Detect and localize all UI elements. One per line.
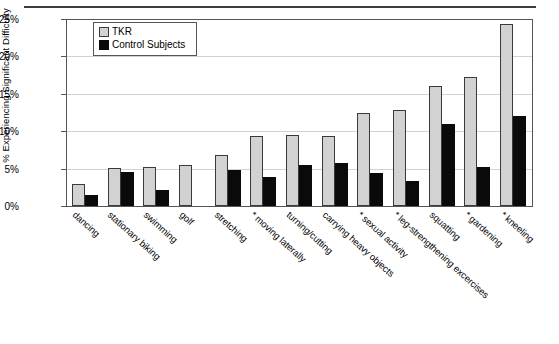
y-axis-title: % Experiencing Significant Difficulty bbox=[0, 0, 11, 211]
bar-control-dancing bbox=[85, 195, 98, 206]
bar-tkr-leg-strengthening-excercises bbox=[393, 110, 406, 206]
legend: TKR Control Subjects bbox=[93, 22, 197, 56]
bar-control-leg-strengthening-excercises bbox=[406, 181, 419, 206]
legend-swatch-tkr-icon bbox=[99, 27, 109, 37]
bar-tkr-stretching bbox=[215, 155, 228, 206]
y-tick-label: 0% bbox=[0, 201, 19, 212]
x-axis-label: stretching bbox=[213, 209, 250, 244]
bar-control-stationary-biking bbox=[121, 172, 134, 206]
bar-tkr-golf bbox=[179, 165, 192, 206]
figure-top-rule bbox=[24, 6, 536, 8]
bar-tkr-dancing bbox=[72, 184, 85, 206]
bar-control-squatting bbox=[442, 124, 455, 206]
x-axis-label: golf bbox=[177, 209, 195, 227]
y-tick-label: 20% bbox=[0, 51, 19, 62]
bar-control-carrying-heavy-objects bbox=[335, 163, 348, 206]
legend-label-control: Control Subjects bbox=[112, 40, 185, 50]
x-axis-label: squatting bbox=[427, 209, 462, 242]
figure: % Experiencing Significant Difficulty 25… bbox=[0, 0, 559, 344]
x-axis-labels: dancingstationary bikingswimminggolfstre… bbox=[67, 209, 531, 341]
bar-control-sexual-activity bbox=[370, 173, 383, 206]
bar-group bbox=[495, 20, 531, 206]
bar-control-kneeling bbox=[513, 116, 526, 206]
bar-tkr-turning-cutting bbox=[286, 135, 299, 206]
bar-tkr-kneeling bbox=[500, 24, 513, 206]
bar-control-turning-cutting bbox=[299, 165, 312, 206]
bar-group bbox=[424, 20, 460, 206]
bar-control-gardening bbox=[477, 167, 490, 206]
bar-group bbox=[245, 20, 281, 206]
legend-item-control: Control Subjects bbox=[99, 40, 191, 50]
bar-tkr-carrying-heavy-objects bbox=[322, 136, 335, 206]
y-tick-label: 5% bbox=[0, 164, 19, 175]
y-tick-label: 10% bbox=[0, 126, 19, 137]
bar-tkr-sexual-activity bbox=[357, 113, 370, 206]
bar-group bbox=[388, 20, 424, 206]
bar-tkr-swimming bbox=[143, 167, 156, 206]
y-tick-label: 25% bbox=[0, 14, 19, 25]
bar-control-swimming bbox=[156, 190, 169, 206]
bar-tkr-moving-laterally bbox=[250, 136, 263, 206]
bar-group bbox=[353, 20, 389, 206]
legend-item-tkr: TKR bbox=[99, 27, 191, 37]
legend-label-tkr: TKR bbox=[112, 27, 132, 37]
bar-tkr-gardening bbox=[464, 77, 477, 206]
bar-group bbox=[281, 20, 317, 206]
bar-control-moving-laterally bbox=[263, 177, 276, 206]
bar-tkr-squatting bbox=[429, 86, 442, 206]
bar-tkr-stationary-biking bbox=[108, 168, 121, 206]
bar-group bbox=[317, 20, 353, 206]
x-axis-label: dancing bbox=[70, 209, 102, 239]
bar-group bbox=[210, 20, 246, 206]
y-tick-label: 15% bbox=[0, 89, 19, 100]
legend-swatch-control-icon bbox=[99, 40, 109, 50]
bar-control-stretching bbox=[228, 170, 241, 206]
bar-group bbox=[460, 20, 496, 206]
